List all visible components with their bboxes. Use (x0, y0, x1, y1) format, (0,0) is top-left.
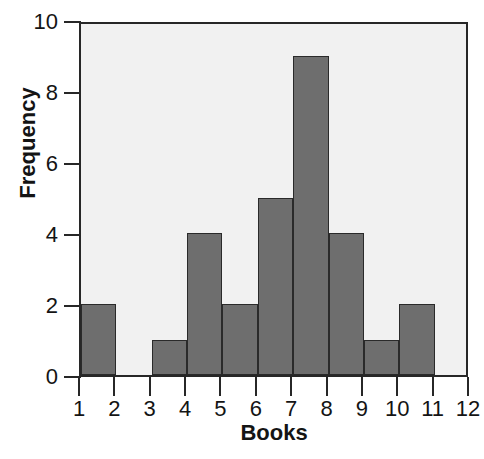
x-tick-mark (113, 377, 115, 396)
x-tick-mark (432, 377, 434, 396)
histogram-bar (81, 304, 116, 375)
x-tick-mark (78, 377, 80, 396)
histogram-bar (258, 198, 293, 376)
x-tick-label: 3 (130, 396, 170, 422)
histogram-bar (293, 56, 328, 376)
x-tick-label: 8 (307, 396, 347, 422)
x-tick-label: 6 (236, 396, 276, 422)
bars-group (81, 24, 466, 375)
x-tick-mark (396, 377, 398, 396)
y-tick-label: 6 (14, 151, 58, 177)
x-tick-label: 5 (200, 396, 240, 422)
x-tick-mark (184, 377, 186, 396)
plot-area (79, 22, 468, 377)
x-tick-mark (219, 377, 221, 396)
x-tick-mark (290, 377, 292, 396)
histogram-bar (364, 340, 399, 376)
histogram-bar (329, 233, 364, 375)
y-tick-label: 10 (14, 9, 58, 35)
histogram-bar (187, 233, 222, 375)
x-tick-label: 1 (59, 396, 99, 422)
x-axis-title: Books (79, 420, 469, 446)
x-tick-label: 12 (448, 396, 484, 422)
y-tick-label: 2 (14, 293, 58, 319)
x-tick-label: 7 (271, 396, 311, 422)
histogram-bar (222, 304, 257, 375)
x-tick-label: 10 (377, 396, 417, 422)
x-tick-label: 2 (94, 396, 134, 422)
x-tick-mark (361, 377, 363, 396)
x-tick-label: 4 (165, 396, 205, 422)
x-tick-mark (467, 377, 469, 396)
x-tick-mark (326, 377, 328, 396)
x-tick-label: 11 (413, 396, 453, 422)
histogram-bar (152, 340, 187, 376)
x-tick-mark (149, 377, 151, 396)
histogram-bar (399, 304, 434, 375)
y-tick-label: 4 (14, 222, 58, 248)
y-tick-label: 8 (14, 80, 58, 106)
y-tick-label: 0 (14, 364, 58, 390)
x-tick-mark (255, 377, 257, 396)
x-tick-label: 9 (342, 396, 382, 422)
